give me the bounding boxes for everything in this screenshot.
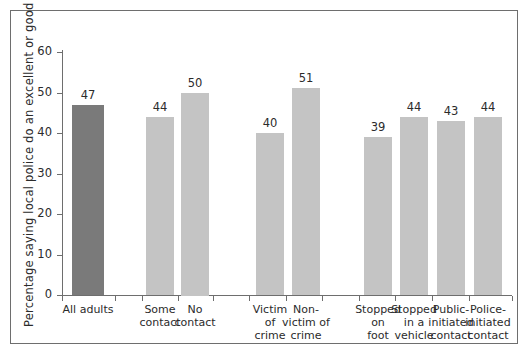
x-axis-category-label: No contact [167, 303, 223, 329]
bar-value-label: 47 [60, 89, 116, 101]
y-axis-tick-label: 0 [18, 289, 52, 300]
bar [474, 117, 502, 295]
y-axis-tick-label: 60 [18, 46, 52, 57]
x-axis-line [62, 295, 512, 296]
x-axis-category-label: Police- initiated contact [460, 303, 516, 342]
x-axis-tick [359, 296, 360, 301]
bar [72, 105, 104, 295]
x-axis-tick [62, 296, 63, 301]
bar [364, 137, 392, 295]
bar [437, 121, 465, 295]
y-axis-tick [57, 52, 63, 53]
y-axis-tick [57, 255, 63, 256]
chart-figure: Percentage saying local police do an exc… [0, 0, 531, 358]
x-axis-tick [115, 296, 116, 301]
x-axis-category-label: Non- victim of crime [278, 303, 334, 342]
bar-value-label: 44 [462, 101, 514, 113]
y-axis-tick [57, 174, 63, 175]
bar [292, 88, 320, 295]
y-axis-tick [57, 214, 63, 215]
x-axis-tick [286, 296, 287, 301]
y-axis-tick-label: 30 [18, 168, 52, 179]
bar-value-label: 40 [244, 117, 296, 129]
x-axis-tick [512, 296, 513, 301]
x-axis-tick [213, 296, 214, 301]
y-axis-tick-label: 20 [18, 208, 52, 219]
bar-value-label: 50 [169, 77, 221, 89]
bar [256, 133, 284, 295]
y-axis-tick [57, 133, 63, 134]
x-axis-tick [432, 296, 433, 301]
y-axis-tick-label: 10 [18, 249, 52, 260]
x-axis-tick [249, 296, 250, 301]
x-axis-tick [322, 296, 323, 301]
bar-value-label: 39 [352, 121, 404, 133]
x-axis-category-label: All adults [58, 303, 118, 316]
x-axis-tick [178, 296, 179, 301]
bar [181, 93, 209, 296]
bar [400, 117, 428, 295]
x-axis-tick [395, 296, 396, 301]
y-axis-line [62, 50, 63, 296]
bar-value-label: 44 [134, 101, 186, 113]
bar [146, 117, 174, 295]
x-axis-tick [142, 296, 143, 301]
y-axis-tick-label: 50 [18, 87, 52, 98]
bar-value-label: 51 [280, 72, 332, 84]
x-axis-tick [469, 296, 470, 301]
y-axis-tick-label: 40 [18, 127, 52, 138]
